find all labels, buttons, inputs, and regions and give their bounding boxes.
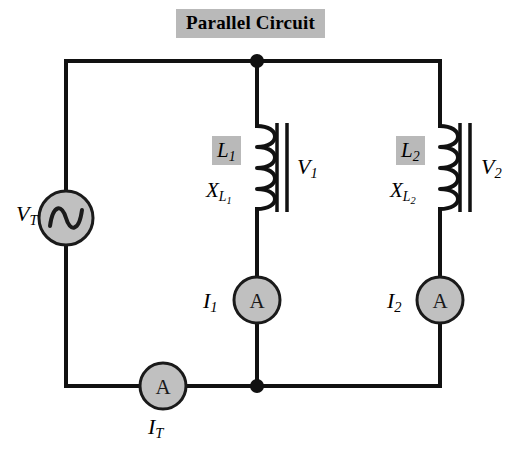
source-label: VT bbox=[16, 203, 38, 228]
current-1-label: I1 bbox=[203, 290, 218, 315]
inductor-2-label: L2 bbox=[396, 140, 425, 164]
current-2-label: I2 bbox=[387, 290, 402, 315]
inductor-1 bbox=[257, 123, 287, 212]
total-current-label: IT bbox=[148, 416, 163, 441]
circuit-schematic bbox=[0, 0, 516, 451]
junction-node-bottom bbox=[250, 379, 264, 393]
ammeter-branch1-letter: A bbox=[247, 289, 267, 314]
coil-1-windings bbox=[257, 126, 275, 209]
ammeter-total-letter: A bbox=[153, 375, 173, 400]
reactance-2-label: XL2 bbox=[390, 180, 416, 206]
junction-node-top bbox=[250, 54, 264, 68]
circuit-diagram: Parallel Circuit bbox=[0, 0, 516, 451]
coil-2-windings bbox=[440, 126, 458, 209]
ac-voltage-source bbox=[39, 191, 93, 245]
voltage-2-label: V2 bbox=[481, 156, 502, 181]
voltage-1-label: V1 bbox=[297, 156, 318, 181]
inductor-1-label: L1 bbox=[212, 140, 241, 164]
inductor-2 bbox=[440, 123, 470, 212]
reactance-1-label: XL1 bbox=[206, 180, 232, 206]
ammeter-branch2-letter: A bbox=[430, 289, 450, 314]
wire-group bbox=[66, 61, 440, 386]
